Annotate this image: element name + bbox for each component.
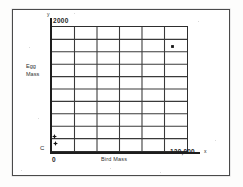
scatter-chart: y x 2000 120,000 0 C Egg Mass Bird Mass (0, 0, 243, 187)
y-axis-title-line1: Egg (26, 62, 52, 70)
scanned-page: y x 2000 120,000 0 C Egg Mass Bird Mass (0, 0, 243, 187)
x-axis-letter: x (204, 149, 207, 154)
y-axis-letter: y (47, 12, 50, 17)
y-axis-title-line2: Mass (26, 70, 52, 78)
x-axis-max-label: 120,000 (170, 149, 195, 156)
y-axis-max-label: 2000 (53, 18, 69, 25)
x-axis-title: Bird Mass (101, 155, 127, 163)
grid-lines (52, 27, 187, 151)
y-axis-title: Egg Mass (26, 62, 52, 78)
y-axis-line (50, 18, 52, 154)
plot-area (51, 26, 188, 152)
x-axis-origin-label: 0 (52, 157, 56, 164)
y-axis-origin-label: C (40, 145, 44, 151)
